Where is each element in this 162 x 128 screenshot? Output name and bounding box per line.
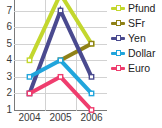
legend-item[interactable]: Yen	[111, 31, 162, 46]
series-marker	[89, 75, 93, 79]
series-marker	[89, 42, 93, 46]
series-marker	[89, 108, 93, 112]
series-lines	[0, 0, 110, 128]
legend-item-label: Yen	[128, 33, 146, 44]
legend-item-label: Pfund	[128, 3, 155, 14]
legend-item[interactable]: SFr	[111, 16, 162, 31]
legend-swatch-icon	[111, 35, 125, 43]
series-marker	[89, 91, 93, 95]
legend-swatch-icon	[111, 5, 125, 13]
chart-container: 12345678 200420052006 PfundSFrYenDollarE…	[0, 0, 162, 128]
legend-marker-icon	[116, 65, 121, 71]
legend: PfundSFrYenDollarEuro	[111, 1, 162, 127]
series-marker	[27, 91, 31, 95]
series-marker	[58, 75, 62, 79]
series-marker	[27, 58, 31, 62]
legend-marker-icon	[116, 20, 121, 26]
legend-marker-icon	[116, 35, 121, 41]
series-marker	[27, 75, 31, 79]
legend-marker-icon	[116, 50, 121, 56]
legend-item[interactable]: Euro	[111, 61, 162, 76]
series-marker	[58, 58, 62, 62]
legend-item[interactable]: Dollar	[111, 46, 162, 61]
legend-item-label: Dollar	[128, 48, 155, 59]
plot-area: 12345678 200420052006	[0, 0, 110, 128]
legend-swatch-icon	[111, 50, 125, 58]
legend-item[interactable]: Pfund	[111, 1, 162, 16]
legend-item-label: SFr	[128, 18, 145, 29]
legend-marker-icon	[116, 5, 121, 11]
legend-swatch-icon	[111, 65, 125, 73]
legend-swatch-icon	[111, 20, 125, 28]
series-marker	[58, 8, 62, 12]
legend-item-label: Euro	[128, 63, 150, 74]
